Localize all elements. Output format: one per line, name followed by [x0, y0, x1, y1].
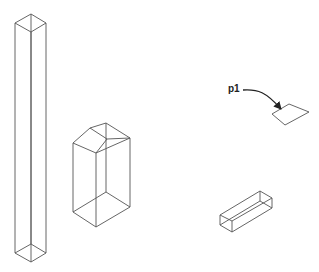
small-long-box[interactable]: [220, 191, 272, 232]
gabled-prism[interactable]: [73, 123, 130, 227]
point-label-p1: p1: [228, 84, 240, 94]
flat-quad-p1[interactable]: [272, 104, 309, 125]
drawing-canvas: [0, 0, 319, 272]
tall-square-prism[interactable]: [15, 14, 46, 262]
leader-arrow: [243, 90, 281, 109]
